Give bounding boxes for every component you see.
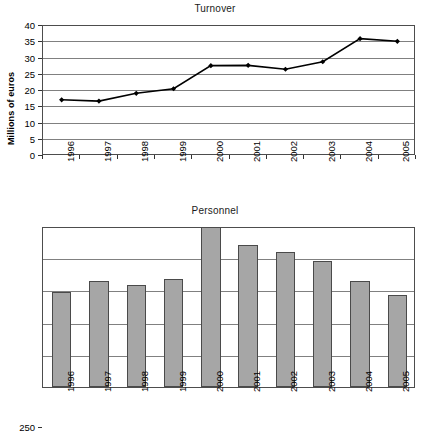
x-tick-mark xyxy=(79,155,80,159)
x-tick-mark xyxy=(191,155,192,159)
y-tick-mark xyxy=(38,139,42,140)
y-tick-label: 0 xyxy=(30,150,35,161)
y-tick-label: 25 xyxy=(24,68,35,79)
y-tick-mark xyxy=(38,427,42,428)
x-tick-label-1999: 1999 xyxy=(177,141,188,162)
x-tick-label-2005: 2005 xyxy=(400,141,411,162)
x-tick-label-2001: 2001 xyxy=(251,371,262,392)
data-point-2001 xyxy=(246,63,251,68)
x-tick-label-2002: 2002 xyxy=(288,141,299,162)
bar-2000 xyxy=(201,227,220,387)
y-tick-label: 250 xyxy=(19,422,35,433)
y-tick-label: 40 xyxy=(24,20,35,31)
x-tick-label-1999: 1999 xyxy=(177,371,188,392)
x-tick-mark xyxy=(415,155,416,159)
data-point-1998 xyxy=(134,91,139,96)
x-tick-mark xyxy=(266,155,267,159)
personnel-chart-title: Personnel xyxy=(0,205,430,216)
y-tick-label: 10 xyxy=(24,117,35,128)
y-tick-mark xyxy=(38,74,42,75)
y-tick-label: 5 xyxy=(30,133,35,144)
y-tick-mark xyxy=(38,58,42,59)
bar-2001 xyxy=(238,245,257,387)
data-point-1996 xyxy=(59,97,64,102)
turnover-plot-area xyxy=(42,25,415,155)
y-tick-label: 20 xyxy=(24,85,35,96)
x-tick-mark xyxy=(340,155,341,159)
turnover-y-axis-title: Millions of euros xyxy=(6,72,16,145)
personnel-chart: Personnel 050100150200250 19961997199819… xyxy=(0,200,430,445)
x-tick-label-2001: 2001 xyxy=(251,141,262,162)
bar-2002 xyxy=(276,252,295,387)
x-tick-label-1997: 1997 xyxy=(102,371,113,392)
turnover-chart: Turnover Millions of euros 0510152025303… xyxy=(0,0,430,200)
x-tick-label-1998: 1998 xyxy=(139,371,150,392)
x-tick-label-1998: 1998 xyxy=(139,141,150,162)
y-tick-mark xyxy=(38,90,42,91)
x-tick-label-1996: 1996 xyxy=(65,371,76,392)
y-tick-label: 15 xyxy=(24,101,35,112)
x-tick-mark xyxy=(378,155,379,159)
gridline xyxy=(43,259,414,260)
x-tick-label-2003: 2003 xyxy=(326,371,337,392)
x-tick-label-2000: 2000 xyxy=(214,141,225,162)
x-tick-mark xyxy=(42,155,43,159)
bar-2003 xyxy=(313,261,332,387)
x-tick-label-2004: 2004 xyxy=(363,141,374,162)
y-tick-label: 30 xyxy=(24,52,35,63)
x-tick-mark xyxy=(154,155,155,159)
x-tick-label-2003: 2003 xyxy=(326,141,337,162)
data-point-2005 xyxy=(395,39,400,44)
x-tick-mark xyxy=(229,155,230,159)
y-tick-mark xyxy=(38,25,42,26)
x-tick-label-1997: 1997 xyxy=(102,141,113,162)
x-tick-mark xyxy=(117,155,118,159)
x-tick-label-2000: 2000 xyxy=(214,371,225,392)
data-point-1997 xyxy=(96,98,101,103)
y-tick-mark xyxy=(38,106,42,107)
x-tick-label-2005: 2005 xyxy=(400,371,411,392)
data-point-2002 xyxy=(283,67,288,72)
y-tick-mark xyxy=(38,123,42,124)
y-tick-label: 35 xyxy=(24,36,35,47)
x-tick-label-2002: 2002 xyxy=(288,371,299,392)
x-tick-label-1996: 1996 xyxy=(65,141,76,162)
y-tick-mark xyxy=(38,41,42,42)
x-tick-mark xyxy=(303,155,304,159)
x-tick-label-2004: 2004 xyxy=(363,371,374,392)
turnover-chart-title: Turnover xyxy=(0,3,430,14)
turnover-line-series xyxy=(43,26,416,156)
personnel-plot-area xyxy=(42,227,415,388)
turnover-line xyxy=(62,39,398,101)
